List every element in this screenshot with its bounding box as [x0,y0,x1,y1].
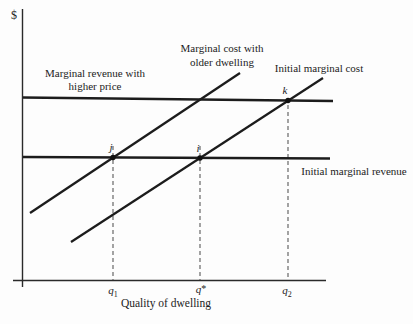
point-j-dot [110,155,115,160]
initial-mc-label: Initial marginal cost [275,62,363,74]
mc-older-dwelling-line [30,73,240,213]
x-tick-q2: q2 [282,284,292,299]
x-axis-title: Quality of dwelling [121,297,211,310]
initial-mr-line [23,157,330,159]
mc-older-dwelling-label-line1: Marginal cost with [181,42,264,54]
point-j-label: j [107,141,112,153]
mr-higher-price-label-line2: higher price [69,80,122,92]
x-tick-q1: q1 [108,284,118,299]
dwelling-quality-chart: $ Marginal revenue with higher price Mar… [0,0,413,324]
x-tick-q1-sub: 1 [114,290,118,299]
initial-mr-label: Initial marginal revenue [301,165,407,177]
x-tick-qstar-sup: * [201,283,206,294]
point-k-dot [285,98,290,103]
dwelling-quality-figure: $ Marginal revenue with higher price Mar… [0,0,413,324]
mr-higher-price-label-line1: Marginal revenue with [45,67,145,79]
point-i-dot [197,155,202,160]
mc-older-dwelling-label-line2: older dwelling [190,56,254,68]
point-k-label: k [283,84,289,96]
x-tick-qstar: q* [196,283,207,296]
x-tick-q2-sub: 2 [288,290,292,299]
point-i-label: i [196,142,199,154]
y-axis-label: $ [11,8,17,22]
